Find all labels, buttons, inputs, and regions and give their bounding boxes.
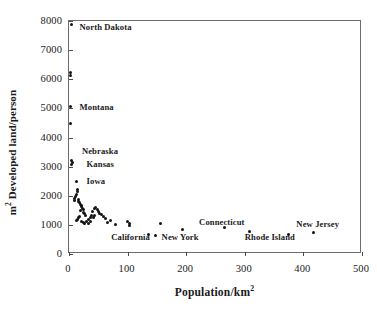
y-tick-label: 1000 xyxy=(10,219,62,230)
point-annotation: Connecticut xyxy=(199,218,245,227)
x-tick-mark xyxy=(186,252,187,256)
x-tick-label: 200 xyxy=(165,263,205,274)
x-tick-mark xyxy=(128,252,129,256)
point-annotation: New Jersey xyxy=(296,220,339,229)
scatter-chart-figure: m2 Developed land/person North DakotaMon… xyxy=(0,0,377,310)
data-point xyxy=(128,224,131,227)
y-tick-label: 0 xyxy=(10,248,62,259)
y-tick-label: 3000 xyxy=(10,161,62,172)
point-annotation: Kansas xyxy=(87,160,114,169)
data-point xyxy=(70,23,73,26)
x-tick-mark xyxy=(362,252,363,256)
x-tick-label: 500 xyxy=(341,263,377,274)
point-annotation: Iowa xyxy=(87,177,106,186)
y-tick-mark xyxy=(69,167,73,168)
x-tick-mark xyxy=(69,252,70,256)
y-tick-label: 6000 xyxy=(10,73,62,84)
y-tick-label: 7000 xyxy=(10,44,62,55)
y-tick-mark xyxy=(69,138,73,139)
y-tick-label: 8000 xyxy=(10,15,62,26)
y-tick-mark xyxy=(69,196,73,197)
y-tick-mark xyxy=(69,79,73,80)
data-point xyxy=(181,228,184,231)
x-tick-label: 0 xyxy=(48,263,88,274)
y-tick-mark xyxy=(69,108,73,109)
point-annotation: Montana xyxy=(80,103,114,112)
data-point xyxy=(69,122,72,125)
x-tick-label: 100 xyxy=(107,263,147,274)
data-point xyxy=(109,219,112,222)
data-point xyxy=(92,216,95,219)
point-annotation: North Dakota xyxy=(80,23,132,32)
y-tick-label: 5000 xyxy=(10,102,62,113)
data-point xyxy=(114,223,117,226)
y-tick-label: 2000 xyxy=(10,190,62,201)
point-annotation: Rhode Island xyxy=(245,233,295,242)
data-point xyxy=(75,180,78,183)
x-axis-title: Population/km2 xyxy=(68,284,361,298)
y-tick-label: 4000 xyxy=(10,132,62,143)
point-annotation: California xyxy=(111,233,150,242)
data-point xyxy=(154,234,157,237)
data-point xyxy=(104,217,107,220)
data-point xyxy=(312,231,315,234)
x-tick-mark xyxy=(303,252,304,256)
data-point xyxy=(84,214,87,217)
y-tick-mark xyxy=(69,225,73,226)
data-point xyxy=(69,74,72,77)
point-annotation: Nebraska xyxy=(82,147,118,156)
x-tick-label: 300 xyxy=(224,263,264,274)
y-tick-mark xyxy=(69,21,73,22)
data-point xyxy=(75,219,78,222)
x-tick-label: 400 xyxy=(282,263,322,274)
data-point xyxy=(91,210,94,213)
point-annotation: New York xyxy=(162,233,199,242)
y-axis-title: m2 Developed land/person xyxy=(4,36,20,269)
plot-area: North DakotaMontanaNebraskaKansasIowaCal… xyxy=(68,20,361,253)
data-point xyxy=(73,199,76,202)
x-tick-mark xyxy=(245,252,246,256)
data-point xyxy=(159,222,162,225)
y-tick-mark xyxy=(69,50,73,51)
